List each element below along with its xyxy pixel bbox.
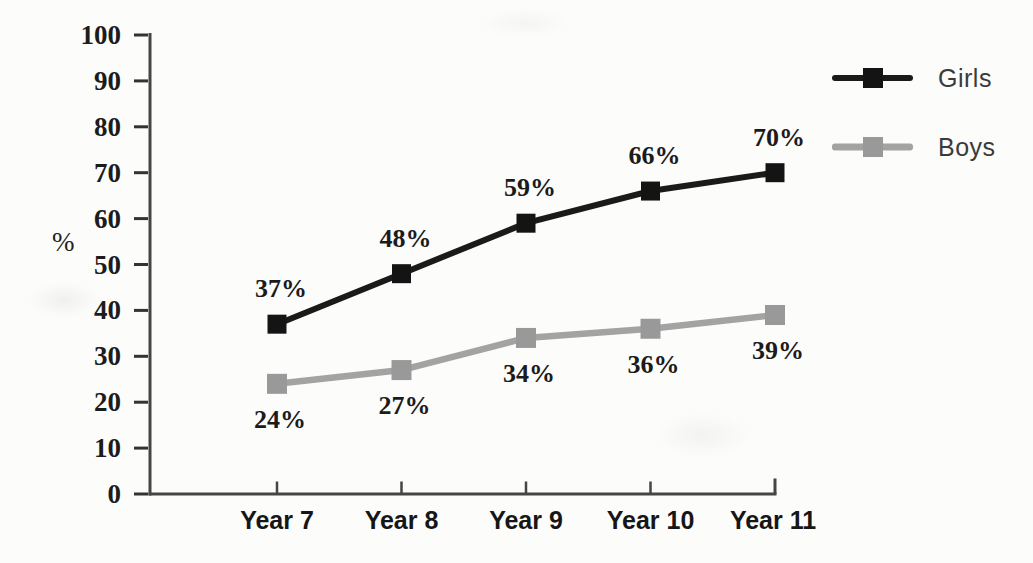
y-tick-label: 90 [94, 66, 121, 96]
data-point-marker-girls [392, 264, 411, 283]
data-point-marker-girls [517, 214, 536, 233]
line-chart-figure: 0102030405060708090100Year 7Year 8Year 9… [0, 0, 1033, 563]
legend-label-boys: Boys [938, 135, 996, 160]
data-point-marker-girls [766, 163, 785, 182]
data-label-boys: 27% [379, 391, 431, 420]
y-tick-label: 0 [108, 479, 122, 509]
legend-square-marker-icon [863, 137, 883, 157]
x-axis-category-label: Year 9 [489, 506, 563, 534]
data-label-girls: 66% [629, 141, 681, 170]
data-label-girls: 70% [753, 123, 805, 152]
data-label-boys: 34% [503, 359, 555, 388]
y-tick-label: 30 [94, 341, 121, 371]
data-point-marker-girls [268, 315, 287, 334]
y-tick-label: 50 [94, 250, 121, 280]
data-label-boys: 39% [752, 336, 804, 365]
legend-swatch-boys [832, 134, 913, 160]
legend-label-girls: Girls [938, 66, 992, 91]
data-point-marker-boys [392, 360, 412, 380]
y-tick-label: 20 [94, 387, 121, 417]
data-label-boys: 24% [254, 405, 306, 434]
y-tick-label: 60 [94, 204, 121, 234]
legend-item-boys: Boys [832, 125, 996, 169]
legend-item-girls: Girls [832, 56, 996, 100]
y-tick-label: 10 [94, 433, 121, 463]
data-label-girls: 37% [255, 274, 307, 303]
data-point-marker-boys [267, 374, 287, 394]
data-point-marker-boys [516, 328, 536, 348]
data-label-girls: 59% [504, 173, 556, 202]
data-label-boys: 36% [628, 350, 680, 379]
y-tick-label: 40 [94, 295, 121, 325]
y-tick-label: 100 [81, 20, 122, 50]
y-tick-label: 70 [94, 158, 121, 188]
y-tick-label: 80 [94, 112, 121, 142]
y-axis-unit-label: % [52, 227, 75, 258]
x-axis-category-label: Year 10 [607, 506, 695, 534]
x-axis-category-label: Year 8 [365, 506, 439, 534]
x-axis-category-label: Year 7 [240, 506, 314, 534]
data-label-girls: 48% [380, 224, 432, 253]
data-point-marker-boys [641, 319, 661, 339]
data-point-marker-boys [765, 305, 785, 325]
legend: Girls Boys [832, 56, 996, 169]
legend-swatch-girls [832, 65, 913, 91]
legend-square-marker-icon [863, 68, 883, 88]
x-axis-category-label: Year 11 [730, 506, 816, 534]
data-point-marker-girls [641, 182, 660, 201]
